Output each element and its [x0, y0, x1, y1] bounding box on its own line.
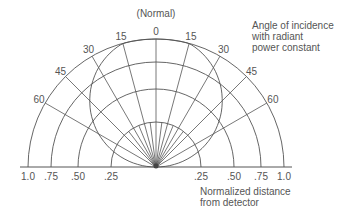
- angle-annotation-line: with radiant: [252, 31, 334, 42]
- angle-label: 45: [246, 66, 258, 77]
- angle-rays: [45, 39, 267, 167]
- angle-label: 45: [55, 66, 67, 77]
- angle-label: 60: [267, 94, 279, 105]
- angle-annotation-line: power constant: [252, 42, 334, 53]
- distance-annotation-line: Normalized distance: [200, 186, 291, 197]
- angle-annotation: Angle of incidence with radiant power co…: [252, 20, 334, 53]
- distance-label: .75: [44, 171, 58, 182]
- angle-label: 15: [185, 31, 197, 42]
- angle-label: 60: [34, 94, 46, 105]
- distance-label: .25: [104, 171, 118, 182]
- distance-label: .50: [71, 171, 85, 182]
- distance-label: .75: [254, 171, 268, 182]
- distance-label: .25: [194, 171, 208, 182]
- angle-annotation-line: Angle of incidence: [252, 20, 334, 31]
- detector-point: [154, 164, 159, 169]
- distance-annotation: Normalized distance from detector: [200, 186, 291, 208]
- distance-label: .50: [227, 171, 241, 182]
- angle-label: 30: [218, 44, 230, 55]
- normal-label: (Normal): [137, 8, 176, 19]
- distance-annotation-line: from detector: [200, 197, 291, 208]
- distance-labels: 1.01.0.75.75.50.50.25.25: [21, 171, 291, 182]
- angle-label: 0: [153, 26, 159, 37]
- distance-label: 1.0: [21, 171, 35, 182]
- distance-label: 1.0: [277, 171, 291, 182]
- angle-label: 30: [83, 44, 95, 55]
- angle-label: 15: [116, 31, 128, 42]
